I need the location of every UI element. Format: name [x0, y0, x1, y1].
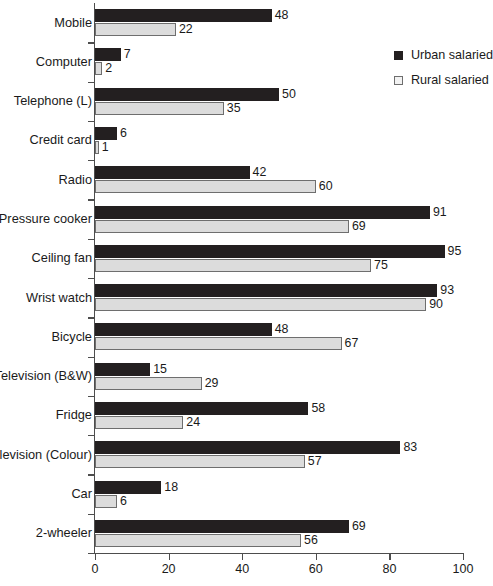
bar-rural-salaried	[95, 180, 316, 193]
bar-urban-salaried	[95, 520, 349, 533]
bar-urban-salaried	[95, 284, 437, 297]
y-axis-tick	[88, 82, 95, 83]
x-axis-tick	[316, 554, 317, 560]
bar-value-label: 58	[311, 402, 325, 415]
bar-value-label: 24	[186, 416, 200, 429]
bar-urban-salaried	[95, 127, 117, 140]
bar-group: Television (B&W)1529	[0, 357, 490, 396]
bar-rural-salaried	[95, 298, 426, 311]
y-axis-tick	[88, 317, 95, 318]
bar-value-label: 60	[319, 180, 333, 193]
bar-value-label: 95	[448, 245, 462, 258]
category-label: Radio	[0, 172, 92, 187]
bar-urban-salaried	[95, 166, 250, 179]
x-axis-tick-label: 60	[309, 562, 323, 576]
x-axis-tick	[242, 554, 243, 560]
bar-urban-salaried	[95, 441, 400, 454]
bar-rural-salaried	[95, 102, 224, 115]
bar-urban-salaried	[95, 9, 272, 22]
bar-value-label: 91	[433, 206, 447, 219]
y-axis-tick	[88, 42, 95, 43]
bar-urban-salaried	[95, 363, 150, 376]
bar-urban-salaried	[95, 88, 279, 101]
bar-group: Radio4260	[0, 160, 490, 199]
x-axis-tick-label: 20	[162, 562, 176, 576]
x-axis-tick	[463, 554, 464, 560]
bar-rural-salaried	[95, 220, 349, 233]
category-label: Fridge	[0, 407, 92, 422]
bar-group: Car186	[0, 474, 490, 513]
bar-urban-salaried	[95, 481, 161, 494]
legend-label-rural: Rural salaried	[411, 73, 489, 87]
bar-value-label: 7	[124, 48, 131, 61]
category-label: Bicycle	[0, 329, 92, 344]
x-axis-tick-label: 100	[453, 562, 474, 576]
bar-value-label: 18	[164, 481, 178, 494]
y-axis-tick	[88, 357, 95, 358]
bar-rural-salaried	[95, 141, 99, 154]
bar-value-label: 93	[440, 284, 454, 297]
y-axis-tick	[88, 396, 95, 397]
bar-group: Credit card61	[0, 121, 490, 160]
bar-value-label: 48	[275, 9, 289, 22]
y-axis-tick	[88, 160, 95, 161]
bar-value-label: 83	[403, 441, 417, 454]
bar-rural-salaried	[95, 23, 176, 36]
bar-rural-salaried	[95, 495, 117, 508]
bar-rural-salaried	[95, 455, 305, 468]
bar-urban-salaried	[95, 323, 272, 336]
y-axis-tick	[88, 435, 95, 436]
bar-value-label: 75	[374, 259, 388, 272]
bar-value-label: 57	[308, 455, 322, 468]
bar-group: 2-wheeler6956	[0, 514, 490, 553]
bar-group: Mobile4822	[0, 3, 490, 42]
category-label: Computer	[0, 54, 92, 69]
bar-value-label: 50	[282, 88, 296, 101]
bar-value-label: 15	[153, 363, 167, 376]
bar-group: Pressure cooker9169	[0, 199, 490, 238]
x-axis-tick-label: 0	[92, 562, 99, 576]
x-axis-line	[94, 553, 464, 554]
category-label: Car	[0, 486, 92, 501]
bar-group: Television (Colour)8357	[0, 435, 490, 474]
y-axis-tick	[88, 474, 95, 475]
bar-value-label: 6	[120, 495, 127, 508]
bar-value-label: 1	[102, 141, 109, 154]
bar-value-label: 69	[352, 520, 366, 533]
y-axis-tick	[88, 121, 95, 122]
bar-value-label: 48	[275, 323, 289, 336]
bar-rural-salaried	[95, 62, 102, 75]
bar-value-label: 42	[253, 166, 267, 179]
bar-rural-salaried	[95, 534, 301, 547]
bar-value-label: 2	[105, 62, 112, 75]
bar-rural-salaried	[95, 377, 202, 390]
y-axis-tick	[88, 199, 95, 200]
legend-label-urban: Urban salaried	[411, 48, 493, 62]
bar-group: Wrist watch9390	[0, 278, 490, 317]
legend-item-urban-salaried: Urban salaried	[394, 48, 493, 62]
y-axis-tick	[88, 239, 95, 240]
y-axis-tick	[88, 278, 95, 279]
bar-value-label: 29	[205, 377, 219, 390]
bar-urban-salaried	[95, 245, 445, 258]
bar-urban-salaried	[95, 402, 308, 415]
legend-swatch-rural-icon	[394, 76, 403, 85]
bar-value-label: 90	[429, 298, 443, 311]
x-axis-tick	[169, 554, 170, 560]
bar-value-label: 56	[304, 534, 318, 547]
bar-rural-salaried	[95, 337, 342, 350]
category-label: Wrist watch	[0, 290, 92, 305]
category-label: Television (B&W)	[0, 368, 92, 383]
bar-group: Fridge5824	[0, 396, 490, 435]
legend-swatch-urban-icon	[394, 51, 403, 60]
bar-value-label: 6	[120, 127, 127, 140]
category-label: Mobile	[0, 15, 92, 30]
category-label: Ceiling fan	[0, 250, 92, 265]
bar-rural-salaried	[95, 259, 371, 272]
x-axis-tick	[389, 554, 390, 560]
bar-rural-salaried	[95, 416, 183, 429]
bar-group: Bicycle4867	[0, 317, 490, 356]
category-label: Credit card	[0, 132, 92, 147]
chart-legend: Urban salaried Rural salaried	[394, 48, 493, 98]
bar-value-label: 22	[179, 23, 193, 36]
